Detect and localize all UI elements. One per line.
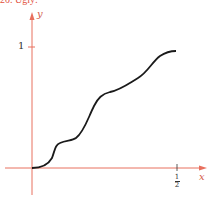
curve-line <box>32 51 176 168</box>
y-tick-label: 1 <box>18 40 24 51</box>
y-axis-label: y <box>37 8 43 19</box>
x-tick-label: 1 2 <box>173 174 181 189</box>
chart-plot <box>0 0 213 207</box>
x-tick-denominator: 2 <box>175 181 179 189</box>
x-tick-numerator: 1 <box>175 173 179 181</box>
y-axis-arrow-icon <box>30 12 35 20</box>
x-axis-arrow-icon <box>199 166 207 171</box>
x-axis-label: x <box>199 171 205 182</box>
